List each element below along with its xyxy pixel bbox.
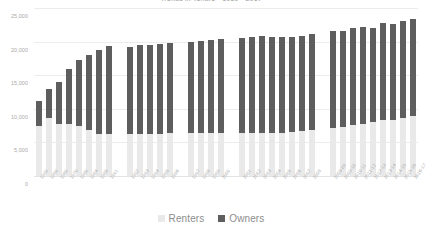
bar-segment-owners[interactable]	[157, 44, 162, 133]
bar-stack[interactable]	[46, 89, 51, 176]
bar-segment-owners[interactable]	[46, 89, 51, 118]
y-axis-tick-label: 5,000	[14, 147, 28, 153]
bar-segment-owners[interactable]	[249, 37, 254, 134]
bar-segment-owners[interactable]	[198, 41, 203, 133]
y-axis-tick-label: 25,000	[11, 13, 28, 19]
bar-segment-owners[interactable]	[36, 101, 41, 125]
bar-stack[interactable]	[269, 37, 274, 176]
bar-series-group	[34, 8, 418, 176]
legend-item-owners[interactable]: Owners	[218, 213, 264, 224]
bar-segment-owners[interactable]	[137, 45, 142, 134]
bar-segment-renters[interactable]	[239, 133, 244, 176]
bar-segment-owners[interactable]	[380, 23, 385, 120]
bar-stack[interactable]	[56, 82, 61, 176]
bar-stack[interactable]	[309, 34, 314, 176]
bar-segment-renters[interactable]	[56, 124, 61, 176]
legend-label-renters: Renters	[169, 213, 205, 224]
bar-segment-owners[interactable]	[299, 36, 304, 131]
bar-segment-renters[interactable]	[66, 124, 71, 176]
bar-stack[interactable]	[360, 27, 365, 176]
bar-stack[interactable]	[96, 50, 101, 176]
y-axis-tick-label: 20,000	[11, 47, 28, 53]
bar-segment-renters[interactable]	[330, 128, 335, 176]
bar-stack[interactable]	[66, 68, 71, 176]
legend-swatch-renters	[158, 215, 165, 222]
bar-segment-owners[interactable]	[309, 34, 314, 129]
legend-swatch-owners	[218, 215, 225, 222]
bar-segment-owners[interactable]	[86, 55, 91, 130]
y-axis-tick-label: 0	[25, 181, 28, 187]
y-axis: 25,00020,00015,00010,0005,0000	[0, 8, 32, 176]
bar-stack[interactable]	[370, 28, 375, 177]
chart-title: Trends in Tenure - 1939 - 2017	[0, 0, 422, 4]
bar-stack[interactable]	[76, 60, 81, 176]
bar-stack[interactable]	[410, 19, 415, 176]
bar-stack[interactable]	[127, 47, 132, 176]
bar-segment-renters[interactable]	[36, 126, 41, 176]
bar-stack[interactable]	[188, 42, 193, 176]
y-axis-tick-label: 10,000	[11, 114, 28, 120]
chart-legend: Renters Owners	[0, 213, 422, 224]
bar-segment-owners[interactable]	[208, 40, 213, 133]
bar-stack[interactable]	[340, 31, 345, 176]
bar-segment-owners[interactable]	[390, 24, 395, 120]
bar-segment-owners[interactable]	[239, 38, 244, 133]
bar-segment-owners[interactable]	[340, 31, 345, 127]
bar-stack[interactable]	[106, 46, 111, 176]
bar-segment-owners[interactable]	[330, 31, 335, 128]
bar-segment-owners[interactable]	[269, 37, 274, 133]
bar-stack[interactable]	[147, 45, 152, 176]
bar-stack[interactable]	[259, 36, 264, 176]
bar-segment-owners[interactable]	[147, 45, 152, 134]
bar-segment-owners[interactable]	[66, 69, 71, 125]
x-axis: 1939195019601970198019841988199119921993…	[34, 177, 418, 207]
bar-segment-owners[interactable]	[360, 27, 365, 124]
bar-stack[interactable]	[400, 21, 405, 176]
legend-item-renters[interactable]: Renters	[158, 213, 205, 224]
plot-area	[34, 8, 418, 176]
bar-segment-owners[interactable]	[76, 60, 81, 127]
bar-stack[interactable]	[36, 101, 41, 176]
bar-stack[interactable]	[86, 55, 91, 176]
bar-stack[interactable]	[137, 45, 142, 176]
bar-stack[interactable]	[157, 44, 162, 176]
bar-segment-owners[interactable]	[289, 37, 294, 133]
bar-segment-renters[interactable]	[188, 133, 193, 176]
bar-segment-owners[interactable]	[96, 50, 101, 133]
bar-stack[interactable]	[208, 40, 213, 176]
bar-segment-owners[interactable]	[106, 46, 111, 134]
bar-stack[interactable]	[390, 24, 395, 176]
bar-segment-owners[interactable]	[167, 43, 172, 133]
legend-label-owners: Owners	[229, 213, 264, 224]
bar-stack[interactable]	[198, 41, 203, 176]
bar-stack[interactable]	[249, 37, 254, 176]
bar-segment-owners[interactable]	[400, 21, 405, 118]
bar-stack[interactable]	[299, 36, 304, 176]
bar-stack[interactable]	[239, 38, 244, 176]
bar-stack[interactable]	[289, 37, 294, 176]
bar-segment-owners[interactable]	[188, 42, 193, 133]
bar-stack[interactable]	[167, 43, 172, 176]
bar-segment-owners[interactable]	[370, 28, 375, 123]
bar-segment-owners[interactable]	[56, 82, 61, 124]
bar-segment-owners[interactable]	[350, 28, 355, 125]
y-axis-tick-label: 15,000	[11, 80, 28, 86]
bar-stack[interactable]	[218, 39, 223, 176]
bar-segment-owners[interactable]	[259, 36, 264, 133]
bar-segment-owners[interactable]	[410, 19, 415, 116]
bar-segment-owners[interactable]	[127, 47, 132, 134]
bar-segment-renters[interactable]	[127, 134, 132, 176]
bar-stack[interactable]	[330, 31, 335, 176]
bar-stack[interactable]	[380, 23, 385, 176]
bar-stack[interactable]	[350, 28, 355, 176]
bar-segment-renters[interactable]	[46, 118, 51, 176]
bar-segment-owners[interactable]	[279, 37, 284, 133]
bar-stack[interactable]	[279, 37, 284, 176]
bar-segment-owners[interactable]	[218, 39, 223, 133]
